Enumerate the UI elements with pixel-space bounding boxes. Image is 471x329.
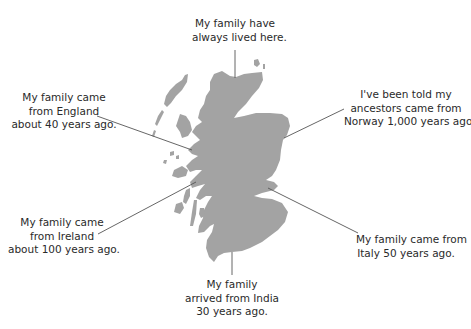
small-island bbox=[163, 160, 167, 164]
callout-line: from Ireland bbox=[8, 230, 116, 244]
callout-line: My family bbox=[180, 278, 284, 292]
lewis-harris bbox=[164, 74, 188, 107]
callout-italy: My family came from Italy 50 years ago. bbox=[356, 233, 456, 260]
small-island bbox=[170, 151, 174, 156]
islay-island bbox=[174, 202, 184, 214]
callout-line: about 100 years ago. bbox=[8, 243, 116, 257]
callout-india: My family arrived from India 30 years ag… bbox=[180, 278, 284, 319]
callout-line: Italy 50 years ago. bbox=[356, 247, 456, 261]
callout-line: ancestors came from bbox=[344, 102, 468, 116]
callout-england: My family came from England about 40 yea… bbox=[10, 91, 118, 132]
callout-line: always lived here. bbox=[192, 31, 278, 45]
callout-line: My family came bbox=[8, 216, 116, 230]
scotland-landmass bbox=[152, 59, 290, 262]
callout-line: arrived from India bbox=[180, 292, 284, 306]
orkney-island bbox=[263, 64, 265, 69]
uist-islands bbox=[155, 110, 164, 126]
callout-ireland: My family came from Ireland about 100 ye… bbox=[8, 216, 116, 257]
callout-line: My family have bbox=[192, 17, 278, 31]
callout-norway: I've been told my ancestors came from No… bbox=[344, 88, 468, 129]
callout-line: about 40 years ago. bbox=[10, 118, 118, 132]
leader-line-norway bbox=[284, 109, 344, 138]
mainland bbox=[186, 71, 290, 262]
callout-line: I've been told my bbox=[344, 88, 468, 102]
callout-line: Norway 1,000 years ago! bbox=[344, 115, 468, 129]
callout-line: from England bbox=[10, 105, 118, 119]
jura-island bbox=[183, 188, 190, 204]
callout-line: 30 years ago. bbox=[180, 305, 284, 319]
small-island bbox=[176, 155, 179, 159]
kintyre-peninsula bbox=[190, 200, 197, 226]
skye-island bbox=[176, 114, 192, 138]
mull-island bbox=[172, 166, 188, 178]
callout-north: My family have always lived here. bbox=[192, 17, 278, 44]
orkney-island bbox=[254, 59, 260, 67]
callout-line: My family came bbox=[10, 91, 118, 105]
callout-line: My family came from bbox=[356, 233, 456, 247]
